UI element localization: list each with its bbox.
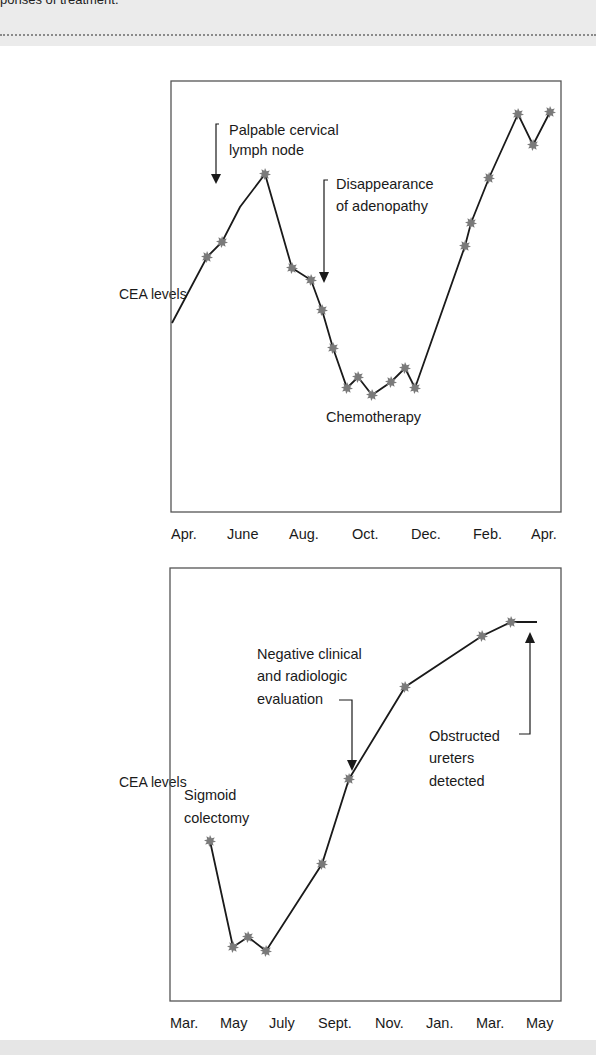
annotation-palpable-line2: lymph node xyxy=(229,142,304,158)
star-marker-icon xyxy=(286,262,298,274)
annotation-obstructed-line1: Obstructed xyxy=(429,728,500,744)
annotation-negative-line3: evaluation xyxy=(257,691,323,707)
chart2-xtick: Mar. xyxy=(476,1015,504,1031)
annotation-obstructed-ureters: Obstructed ureters detected xyxy=(429,632,535,789)
star-marker-icon xyxy=(465,217,477,229)
annotation-chemotherapy: Chemotherapy xyxy=(326,409,422,425)
chart1-xtick: Dec. xyxy=(411,526,441,542)
footer-band xyxy=(0,1040,596,1055)
annotation-negative-evaluation: Negative clinical and radiologic evaluat… xyxy=(257,646,362,771)
chart1-xtick: Oct. xyxy=(352,526,379,542)
star-marker-icon xyxy=(305,274,317,286)
chart1-xtick: Aug. xyxy=(289,526,319,542)
star-marker-icon xyxy=(544,106,556,118)
star-marker-icon xyxy=(512,108,524,120)
annotation-palpable-node: Palpable cervical lymph node xyxy=(211,122,339,184)
star-marker-icon xyxy=(227,941,239,953)
chart2-xaxis-ticks: Mar. May July Sept. Nov. Jan. Mar. May xyxy=(170,1015,554,1031)
chart2-xtick: Nov. xyxy=(375,1015,404,1031)
star-marker-icon xyxy=(343,773,355,785)
chart2-frame xyxy=(170,568,561,1001)
chart2-xtick: May xyxy=(220,1015,248,1031)
star-marker-icon xyxy=(399,681,411,693)
star-marker-icon xyxy=(459,240,471,252)
annotation-sigmoid-line1: Sigmoid xyxy=(184,787,236,803)
chart1-xtick: Apr. xyxy=(531,526,557,542)
arrow-down-icon xyxy=(211,174,221,184)
annotation-disappearance-line2: of adenopathy xyxy=(336,198,429,214)
chart1-xtick: Feb. xyxy=(473,526,502,542)
chart1-xtick: Apr. xyxy=(171,526,197,542)
star-marker-icon xyxy=(327,342,339,354)
annotation-negative-line1: Negative clinical xyxy=(257,646,362,662)
chart2-xtick: May xyxy=(526,1015,554,1031)
star-marker-icon xyxy=(316,304,328,316)
star-marker-icon xyxy=(204,835,216,847)
star-marker-icon xyxy=(527,139,539,151)
chart2-xtick: Mar. xyxy=(170,1015,198,1031)
arrow-down-icon xyxy=(319,272,329,283)
star-marker-icon xyxy=(409,382,421,394)
chart1-xaxis-ticks: Apr. June Aug. Oct. Dec. Feb. Apr. xyxy=(171,526,557,542)
annotation-obstructed-line2: ureters xyxy=(429,750,474,766)
annotation-sigmoid-line2: colectomy xyxy=(184,810,250,826)
annotation-disappearance-line1: Disappearance xyxy=(336,176,434,192)
star-marker-icon xyxy=(505,616,517,628)
annotation-obstructed-line3: detected xyxy=(429,773,485,789)
chart2-xtick: July xyxy=(269,1015,296,1031)
chart2-xtick: Jan. xyxy=(426,1015,453,1031)
star-marker-icon xyxy=(483,172,495,184)
annotation-sigmoid-colectomy: Sigmoid colectomy xyxy=(184,787,250,826)
chart2-xtick: Sept. xyxy=(318,1015,352,1031)
star-marker-icon xyxy=(316,858,328,870)
annotation-palpable-line1: Palpable cervical xyxy=(229,122,339,138)
charts-canvas: Palpable cervical lymph node Disappearan… xyxy=(0,0,596,1055)
annotation-negative-line2: and radiologic xyxy=(257,668,347,684)
chart1-xtick: June xyxy=(227,526,258,542)
annotation-disappearance: Disappearance of adenopathy xyxy=(319,176,434,283)
arrow-up-icon xyxy=(525,632,535,643)
star-marker-icon xyxy=(476,630,488,642)
